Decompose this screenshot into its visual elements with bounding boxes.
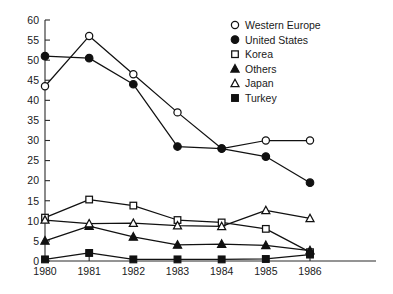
data-point-filled-circle xyxy=(41,52,49,60)
data-point-open-circle xyxy=(174,109,181,116)
data-point-open-square xyxy=(86,196,93,203)
y-axis-tick-label: 40 xyxy=(27,94,39,106)
legend-item[interactable]: Western Europe xyxy=(231,19,320,31)
y-axis-tick-label: 20 xyxy=(27,174,39,186)
data-point-filled-circle xyxy=(218,145,226,153)
data-point-filled-circle xyxy=(262,153,270,161)
legend-item-label: Western Europe xyxy=(245,19,321,31)
y-axis: 051015202530354045505560 xyxy=(27,14,50,267)
chart-legend: Western EuropeUnited StatesKoreaOthersJa… xyxy=(231,19,321,104)
y-axis-tick-label: 10 xyxy=(27,215,39,227)
legend-marker-open-circle xyxy=(231,21,238,28)
legend-item-label: Others xyxy=(245,63,277,75)
x-axis-tick-label: 1981 xyxy=(77,265,101,277)
legend-item[interactable]: Korea xyxy=(232,48,273,60)
legend-marker-filled-square xyxy=(232,95,239,102)
chart-canvas: 051015202530354045505560 198019811982198… xyxy=(0,0,393,294)
data-point-filled-circle xyxy=(130,80,138,88)
data-point-filled-square xyxy=(86,250,93,257)
x-axis-tick-label: 1982 xyxy=(122,265,146,277)
data-point-filled-square xyxy=(42,256,49,263)
x-axis-tick-label: 1980 xyxy=(33,265,57,277)
data-point-open-triangle xyxy=(262,206,270,213)
data-point-filled-circle xyxy=(85,54,93,62)
legend-item[interactable]: United States xyxy=(231,34,308,46)
data-point-filled-square xyxy=(307,251,314,258)
y-axis-tick-label: 60 xyxy=(27,14,39,26)
legend-item-label: United States xyxy=(245,34,308,46)
y-axis-tick-label: 5 xyxy=(33,235,39,247)
y-axis-tick-label: 15 xyxy=(27,195,39,207)
data-point-open-circle xyxy=(306,137,313,144)
legend-item-label: Korea xyxy=(245,48,273,60)
data-point-filled-square xyxy=(218,256,225,263)
x-axis-tick-label: 1984 xyxy=(210,265,234,277)
legend-marker-filled-circle xyxy=(231,36,239,44)
legend-item-label: Turkey xyxy=(245,92,277,104)
legend-marker-open-square xyxy=(232,51,239,58)
legend-marker-filled-triangle xyxy=(231,64,239,72)
data-point-filled-square xyxy=(262,256,269,263)
data-point-filled-circle xyxy=(306,179,314,187)
x-axis-tick-label: 1985 xyxy=(254,265,278,277)
data-point-filled-square xyxy=(174,256,181,263)
legend-item-label: Japan xyxy=(245,77,274,89)
legend-item[interactable]: Others xyxy=(231,63,277,75)
y-axis-tick-label: 45 xyxy=(27,74,39,86)
data-point-open-circle xyxy=(262,137,269,144)
legend-item[interactable]: Japan xyxy=(231,77,274,89)
series-line xyxy=(45,56,310,183)
x-axis-tick-label: 1983 xyxy=(166,265,190,277)
y-axis-tick-label: 30 xyxy=(27,134,39,146)
data-point-open-square xyxy=(130,202,137,209)
legend-item[interactable]: Turkey xyxy=(232,92,278,104)
x-axis-tick-label: 1986 xyxy=(298,265,322,277)
data-point-filled-square xyxy=(130,256,137,263)
y-axis-tick-label: 50 xyxy=(27,54,39,66)
data-point-open-circle xyxy=(130,71,137,78)
data-point-open-square xyxy=(263,226,270,233)
y-axis-tick-label: 35 xyxy=(27,114,39,126)
data-point-open-circle xyxy=(41,83,48,90)
y-axis-tick-label: 55 xyxy=(27,34,39,46)
data-point-open-circle xyxy=(86,32,93,39)
line-chart: 051015202530354045505560 198019811982198… xyxy=(0,0,393,294)
y-axis-tick-label: 25 xyxy=(27,154,39,166)
data-point-filled-circle xyxy=(174,143,182,151)
legend-marker-open-triangle xyxy=(231,79,239,86)
